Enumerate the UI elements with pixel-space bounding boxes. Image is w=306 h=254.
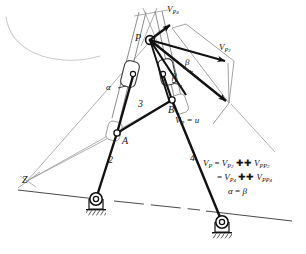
ground-pivot-left (86, 193, 106, 216)
equation-block: VP = VP2 ✚✚ VPP2 = VP4 ✚✚ VPP4 α = β (203, 159, 272, 199)
figure-canvas (0, 0, 306, 254)
vector-label-vp2: VP2 (219, 43, 231, 54)
link-label-2: 2 (108, 155, 113, 165)
equation-line-2: = VP4 ✚✚ VPP4 (203, 173, 272, 184)
point-label-b: B (168, 105, 174, 115)
point-label-z: Z (22, 175, 28, 185)
ground-pivot-right (212, 216, 232, 239)
mechanism-figure: P A B Z 2 3 4 α β β VP4 VP2 VP = u VP = … (0, 0, 306, 254)
stray-pencil-curve (6, 17, 100, 60)
point-label-p: P (135, 33, 141, 43)
vector-vp-tail: = u (184, 115, 199, 125)
instant-centre-construction-rays (18, 30, 172, 188)
mechanism-links (96, 74, 222, 222)
vector-label-vp4: VP4 (167, 5, 179, 16)
equation-line-1: VP = VP2 ✚✚ VPP2 (203, 159, 272, 170)
joint-upper-left (130, 71, 135, 76)
angle-label-beta-upper: β (185, 58, 189, 67)
joint-a (114, 130, 120, 136)
link-label-3: 3 (138, 99, 143, 109)
point-label-a: A (122, 136, 128, 146)
angle-label-alpha: α (106, 83, 111, 92)
link-label-4: 4 (190, 153, 195, 163)
vector-label-vp-equals-u: VP = u (175, 116, 199, 126)
vector-vp4-subsub: 4 (176, 10, 178, 15)
vector-vp2-subsub: 2 (228, 48, 230, 53)
equation-line-3: α = β (203, 187, 272, 196)
angle-label-beta-lower: β (172, 72, 176, 81)
